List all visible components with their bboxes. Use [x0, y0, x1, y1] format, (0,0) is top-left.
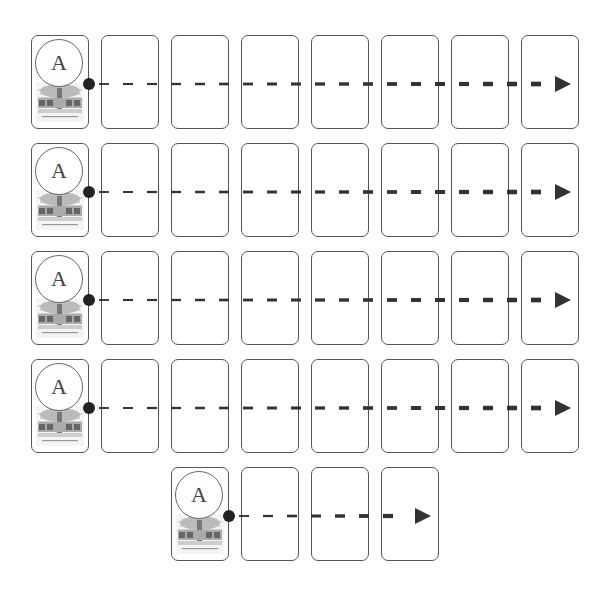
start-dot-icon	[83, 402, 95, 414]
start-card: A	[31, 143, 89, 237]
start-card-label: A	[51, 266, 67, 292]
dashed-arrow-icon	[93, 290, 571, 310]
label-circle: A	[175, 471, 223, 519]
start-card-label: A	[191, 482, 207, 508]
start-dot-icon	[223, 510, 235, 522]
start-card-label: A	[51, 374, 67, 400]
dashed-arrow-icon	[93, 398, 571, 418]
tree-photo-icon	[176, 514, 224, 554]
start-card: A	[171, 467, 229, 561]
start-card-label: A	[51, 50, 67, 76]
start-dot-icon	[83, 294, 95, 306]
dashed-arrow-icon	[93, 74, 571, 94]
start-card-label: A	[51, 158, 67, 184]
tree-photo-icon	[36, 406, 84, 446]
tree-photo-icon	[36, 190, 84, 230]
tree-photo-icon	[36, 298, 84, 338]
label-circle: A	[35, 147, 83, 195]
label-circle: A	[35, 255, 83, 303]
label-circle: A	[35, 39, 83, 87]
dashed-arrow-icon	[233, 506, 431, 526]
label-circle: A	[35, 363, 83, 411]
start-dot-icon	[83, 186, 95, 198]
tree-photo-icon	[36, 82, 84, 122]
start-card: A	[31, 251, 89, 345]
start-card: A	[31, 359, 89, 453]
start-card: A	[31, 35, 89, 129]
start-dot-icon	[83, 78, 95, 90]
dashed-arrow-icon	[93, 182, 571, 202]
